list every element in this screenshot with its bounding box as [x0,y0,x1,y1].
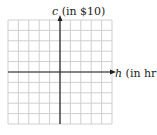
y-axis-unit: (in $10) [58,5,105,18]
x-axis-label: h (in hr) [115,68,157,79]
coordinate-plane: c (in $10) h (in hr) [0,0,157,135]
y-axis-label: c (in $10) [52,6,105,17]
x-axis-unit: (in hr) [122,67,157,80]
